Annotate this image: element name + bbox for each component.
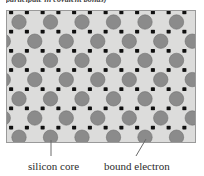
silicon-core — [138, 130, 152, 143]
bound-electron — [167, 11, 170, 14]
silicon-core — [43, 130, 57, 143]
bound-electron — [25, 68, 28, 71]
bound-electron — [120, 49, 123, 52]
silicon-core — [28, 34, 42, 48]
bound-electron — [41, 107, 44, 110]
bound-electron — [151, 88, 154, 91]
silicon-core — [28, 72, 42, 86]
bound-electron — [136, 30, 139, 33]
bound-electron — [88, 126, 91, 129]
page-caption-text: participate in covalent bonds) — [6, 0, 202, 3]
bound-electron — [72, 49, 75, 52]
bound-electron — [88, 88, 91, 91]
legend-label-silicon-core: silicon core — [28, 160, 79, 172]
bound-electron — [57, 49, 60, 52]
silicon-core — [106, 92, 120, 106]
silicon-core — [43, 92, 57, 106]
bound-electron — [41, 49, 44, 52]
silicon-core — [75, 92, 89, 106]
bound-electron — [167, 68, 170, 71]
bound-electron — [135, 88, 138, 91]
bound-electron — [104, 126, 107, 129]
bound-electron — [135, 126, 138, 129]
bound-electron — [167, 126, 170, 129]
silicon-core — [122, 34, 136, 48]
bound-electron — [104, 49, 107, 52]
bound-electron — [10, 30, 13, 33]
bound-electron — [72, 11, 75, 14]
bound-electron — [41, 88, 44, 91]
silicon-core — [169, 130, 183, 143]
bound-electron — [73, 68, 76, 71]
bound-electron — [25, 30, 28, 33]
bound-electron — [9, 88, 12, 91]
silicon-core — [12, 15, 26, 29]
bound-electron — [88, 107, 91, 110]
bound-electron — [136, 107, 139, 110]
bound-electron — [182, 107, 185, 110]
bound-electron — [88, 11, 91, 14]
bound-electron — [25, 49, 28, 52]
silicon-core — [28, 111, 42, 125]
silicon-core — [169, 92, 183, 106]
bound-electron — [88, 68, 91, 71]
bound-electron — [183, 49, 186, 52]
lattice-canvas — [6, 10, 196, 143]
silicon-core — [122, 72, 136, 86]
bound-electron — [57, 126, 60, 129]
silicon-core — [154, 34, 168, 48]
silicon-core — [138, 92, 152, 106]
bound-electron — [167, 30, 170, 33]
silicon-core — [59, 111, 73, 125]
bound-electron — [167, 49, 170, 52]
silicon-core — [91, 34, 105, 48]
bound-electron — [56, 68, 59, 71]
silicon-core — [154, 111, 168, 125]
bound-electron — [183, 126, 186, 129]
silicon-core — [106, 15, 120, 29]
bound-electron — [88, 49, 91, 52]
bound-electron — [41, 126, 44, 129]
bound-electron — [57, 11, 60, 14]
bound-electron — [104, 11, 107, 14]
silicon-core — [122, 111, 136, 125]
silicon-core — [75, 130, 89, 143]
bound-electron — [9, 49, 12, 52]
bound-electron — [136, 68, 139, 71]
silicon-core — [12, 92, 26, 106]
bound-electron — [104, 107, 107, 110]
bound-electron — [135, 49, 138, 52]
silicon-core — [106, 53, 120, 67]
bound-electron — [167, 88, 170, 91]
silicon-lattice-figure — [6, 10, 196, 143]
legend-label-bound-electron: bound electron — [104, 160, 170, 172]
silicon-core — [43, 15, 57, 29]
bound-electron — [119, 30, 122, 33]
bound-electron — [88, 30, 91, 33]
bound-electron — [9, 126, 12, 129]
bound-electron — [9, 11, 12, 14]
bound-electron — [120, 11, 123, 14]
bound-electron — [182, 30, 185, 33]
bound-electron — [25, 107, 28, 110]
bound-electron — [25, 88, 28, 91]
bound-electron — [151, 107, 154, 110]
bound-electron — [119, 68, 122, 71]
bound-electron — [56, 107, 59, 110]
silicon-core — [75, 15, 89, 29]
silicon-core — [75, 53, 89, 67]
bound-electron — [41, 68, 44, 71]
bound-electron — [183, 11, 186, 14]
bound-electron — [56, 30, 59, 33]
bound-electron — [72, 88, 75, 91]
silicon-core — [138, 15, 152, 29]
bound-electron — [10, 68, 13, 71]
bound-electron — [72, 126, 75, 129]
silicon-core — [138, 53, 152, 67]
bound-electron — [135, 11, 138, 14]
bound-electron — [25, 11, 28, 14]
silicon-core — [106, 130, 120, 143]
bound-electron — [57, 88, 60, 91]
bound-electron — [182, 68, 185, 71]
bound-electron — [183, 88, 186, 91]
